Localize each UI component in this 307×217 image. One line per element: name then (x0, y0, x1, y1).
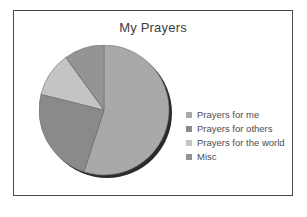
legend-item[interactable]: Prayers for the world (186, 136, 302, 150)
legend-swatch-icon (186, 112, 192, 118)
chart-title: My Prayers (14, 20, 292, 35)
legend-swatch-icon (186, 140, 192, 146)
legend-swatch-icon (186, 154, 192, 160)
pie-chart (39, 45, 175, 181)
chart-legend: Prayers for me Prayers for others Prayer… (186, 108, 302, 164)
legend-item-label: Prayers for the world (197, 136, 285, 150)
legend-swatch-icon (186, 126, 192, 132)
legend-item-label: Prayers for others (197, 122, 273, 136)
chart-frame: My Prayers Prayers for me Prayers for ot… (13, 10, 293, 196)
legend-item[interactable]: Misc (186, 150, 302, 164)
legend-item[interactable]: Prayers for others (186, 122, 302, 136)
legend-item-label: Prayers for me (197, 108, 259, 122)
legend-item-label: Misc (197, 150, 217, 164)
pie-slices (39, 45, 175, 181)
legend-item[interactable]: Prayers for me (186, 108, 302, 122)
